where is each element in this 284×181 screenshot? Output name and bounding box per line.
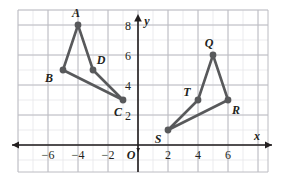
y-tick-label-2: 2 bbox=[125, 109, 131, 123]
x-tick-label-6: 6 bbox=[225, 148, 231, 162]
vertex-dot-r bbox=[225, 97, 232, 104]
x-tick-label--4: −4 bbox=[72, 148, 85, 162]
vertex-label-c: C bbox=[114, 105, 123, 119]
vertex-label-d: D bbox=[96, 53, 106, 67]
vertex-dot-a bbox=[75, 22, 82, 29]
x-axis-label: x bbox=[253, 129, 260, 143]
x-tick-label-2: 2 bbox=[165, 148, 171, 162]
x-tick-label-4: 4 bbox=[195, 148, 201, 162]
coordinate-plane: x y O −6 −4 −2 2 4 6 2 4 6 8 bbox=[0, 0, 284, 181]
x-tick-label--2: −2 bbox=[102, 148, 115, 162]
x-tick-label--6: −6 bbox=[42, 148, 55, 162]
vertex-label-q: Q bbox=[205, 36, 214, 50]
y-tick-label-8: 8 bbox=[125, 19, 131, 33]
vertex-dot-c bbox=[120, 97, 127, 104]
y-tick-label-4: 4 bbox=[125, 79, 131, 93]
origin-label: O bbox=[127, 148, 136, 162]
vertex-label-r: R bbox=[231, 103, 240, 117]
vertex-dot-t bbox=[195, 97, 202, 104]
vertex-label-s: S bbox=[155, 132, 162, 146]
figure-canvas: x y O −6 −4 −2 2 4 6 2 4 6 8 bbox=[0, 0, 284, 181]
vertex-dot-d bbox=[90, 67, 97, 74]
vertex-label-b: B bbox=[44, 71, 53, 85]
vertex-dot-q bbox=[210, 52, 217, 59]
vertex-dot-b bbox=[60, 67, 67, 74]
y-tick-label-6: 6 bbox=[125, 49, 131, 63]
vertex-label-t: T bbox=[183, 85, 191, 99]
vertex-label-a: A bbox=[71, 6, 80, 20]
vertex-dot-s bbox=[165, 127, 172, 134]
y-axis-label: y bbox=[142, 14, 150, 28]
